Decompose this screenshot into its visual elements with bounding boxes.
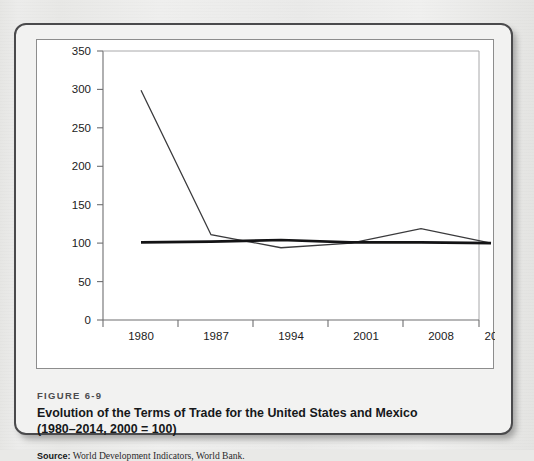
x-tick-1994: 1994 bbox=[278, 330, 304, 342]
terms-of-trade-line-chart: 350 300 250 200 150 100 50 0 1980 1987 1… bbox=[37, 40, 495, 370]
x-tick-2008: 2008 bbox=[428, 330, 454, 342]
y-axis: 350 300 250 200 150 100 50 0 bbox=[72, 45, 103, 326]
figure-title-line2: (1980–2014, 2000 = 100) bbox=[37, 422, 177, 436]
y-tick-300: 300 bbox=[72, 83, 91, 95]
x-tick-1980: 1980 bbox=[128, 330, 154, 342]
y-tick-150: 150 bbox=[72, 199, 91, 211]
plot-frame bbox=[103, 51, 479, 320]
series-line-united-states bbox=[141, 240, 491, 243]
x-axis: 1980 1987 1994 2001 2008 2015–16 bbox=[103, 320, 495, 342]
chart-panel: 350 300 250 200 150 100 50 0 1980 1987 1… bbox=[36, 39, 494, 369]
source-text: World Development Indicators, World Bank… bbox=[71, 450, 245, 461]
series-line-mexico bbox=[141, 90, 491, 248]
figure-number: FIGURE 6-9 bbox=[37, 390, 492, 401]
x-tick-1987: 1987 bbox=[203, 330, 229, 342]
source-label: Source: bbox=[37, 451, 71, 461]
figure-caption: FIGURE 6-9 Evolution of the Terms of Tra… bbox=[37, 377, 492, 461]
y-tick-200: 200 bbox=[72, 160, 91, 172]
x-tick-2015-16: 2015–16 bbox=[485, 330, 495, 342]
y-tick-350: 350 bbox=[72, 45, 91, 57]
figure-source: Source: World Development Indicators, Wo… bbox=[37, 450, 492, 461]
y-tick-100: 100 bbox=[72, 237, 91, 249]
y-tick-50: 50 bbox=[78, 276, 91, 288]
figure-title: Evolution of the Terms of Trade for the … bbox=[37, 406, 457, 437]
y-tick-250: 250 bbox=[72, 122, 91, 134]
x-tick-2001: 2001 bbox=[353, 330, 379, 342]
y-tick-0: 0 bbox=[85, 314, 91, 326]
figure-title-line1: Evolution of the Terms of Trade for the … bbox=[37, 406, 418, 420]
figure-frame: 350 300 250 200 150 100 50 0 1980 1987 1… bbox=[14, 23, 513, 435]
